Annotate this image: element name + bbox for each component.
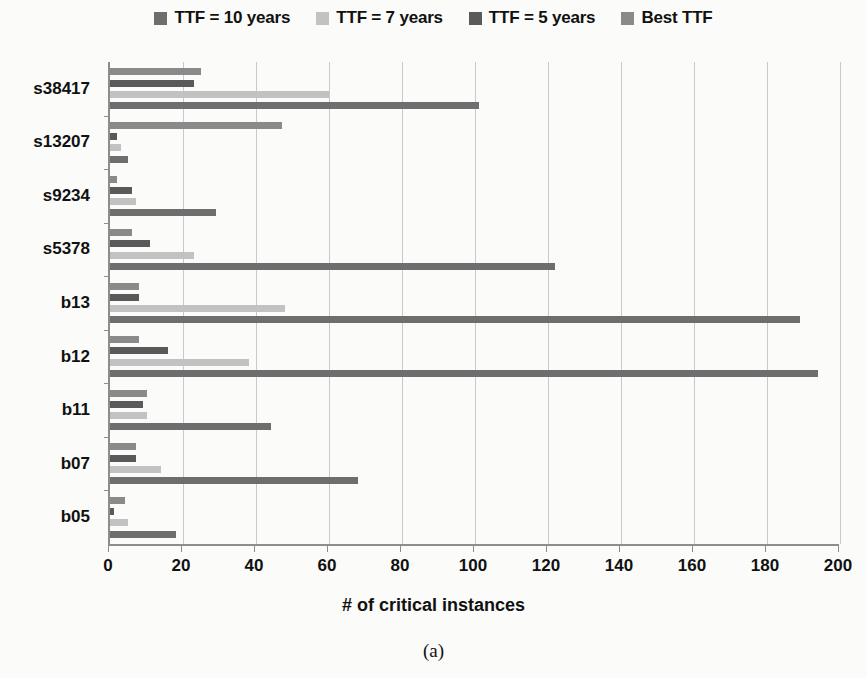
gridline-80 bbox=[402, 62, 403, 544]
y-tick-7 bbox=[104, 437, 110, 438]
legend-label: TTF = 10 years bbox=[174, 8, 290, 28]
y-category-label-s5378: s5378 bbox=[43, 239, 90, 259]
bar-s5378-series-3[interactable] bbox=[110, 229, 132, 236]
x-tick-100 bbox=[473, 546, 474, 552]
x-tick-label-180: 180 bbox=[751, 556, 779, 576]
legend-item-0[interactable]: TTF = 10 years bbox=[154, 8, 290, 28]
bar-b13-series-3[interactable] bbox=[110, 283, 139, 290]
gridline-180 bbox=[767, 62, 768, 544]
y-category-label-b11: b11 bbox=[62, 400, 90, 420]
bar-b07-series-2[interactable] bbox=[110, 455, 136, 462]
y-category-label-b05: b05 bbox=[61, 507, 90, 527]
bar-s9234-series-2[interactable] bbox=[110, 187, 132, 194]
bar-b05-series-3[interactable] bbox=[110, 497, 125, 504]
bar-s13207-series-3[interactable] bbox=[110, 122, 282, 129]
bar-b07-series-1[interactable] bbox=[110, 466, 161, 473]
bar-b12-series-3[interactable] bbox=[110, 336, 139, 343]
bar-b11-series-3[interactable] bbox=[110, 390, 147, 397]
bar-s5378-series-0[interactable] bbox=[110, 263, 555, 270]
x-tick-label-120: 120 bbox=[532, 556, 560, 576]
y-tick-5 bbox=[104, 330, 110, 331]
x-tick-200 bbox=[838, 546, 839, 552]
x-axis-title: # of critical instances bbox=[0, 595, 867, 616]
y-tick-6 bbox=[104, 383, 110, 384]
bar-b05-series-0[interactable] bbox=[110, 531, 176, 538]
y-category-label-b07: b07 bbox=[61, 454, 90, 474]
bar-b07-series-0[interactable] bbox=[110, 477, 358, 484]
figure-container: TTF = 10 yearsTTF = 7 yearsTTF = 5 years… bbox=[0, 0, 867, 678]
y-tick-2 bbox=[104, 169, 110, 170]
x-tick-20 bbox=[181, 546, 182, 552]
x-tick-120 bbox=[546, 546, 547, 552]
legend-swatch-icon bbox=[154, 12, 167, 25]
gridline-140 bbox=[621, 62, 622, 544]
x-tick-label-60: 60 bbox=[318, 556, 337, 576]
y-category-label-b12: b12 bbox=[61, 347, 90, 367]
y-tick-4 bbox=[104, 276, 110, 277]
bar-s9234-series-0[interactable] bbox=[110, 209, 216, 216]
y-tick-8 bbox=[104, 490, 110, 491]
bar-b12-series-0[interactable] bbox=[110, 370, 818, 377]
y-category-label-s38417: s38417 bbox=[33, 79, 90, 99]
x-tick-label-80: 80 bbox=[391, 556, 410, 576]
bar-s5378-series-1[interactable] bbox=[110, 252, 194, 259]
x-tick-0 bbox=[108, 546, 109, 552]
x-tick-label-140: 140 bbox=[605, 556, 633, 576]
chart-legend: TTF = 10 yearsTTF = 7 yearsTTF = 5 years… bbox=[0, 8, 867, 28]
legend-item-2[interactable]: TTF = 5 years bbox=[469, 8, 596, 28]
gridlines bbox=[110, 62, 840, 544]
bar-b13-series-1[interactable] bbox=[110, 305, 285, 312]
legend-swatch-icon bbox=[621, 12, 634, 25]
gridline-100 bbox=[475, 62, 476, 544]
bar-s13207-series-1[interactable] bbox=[110, 144, 121, 151]
gridline-20 bbox=[183, 62, 184, 544]
plot-area bbox=[108, 62, 840, 544]
bar-s9234-series-1[interactable] bbox=[110, 198, 136, 205]
x-tick-40 bbox=[254, 546, 255, 552]
bar-b13-series-2[interactable] bbox=[110, 294, 139, 301]
y-tick-3 bbox=[104, 223, 110, 224]
y-category-label-s13207: s13207 bbox=[33, 132, 90, 152]
x-tick-140 bbox=[619, 546, 620, 552]
y-category-label-s9234: s9234 bbox=[43, 186, 90, 206]
legend-item-1[interactable]: TTF = 7 years bbox=[316, 8, 443, 28]
y-category-label-b13: b13 bbox=[61, 293, 90, 313]
x-tick-60 bbox=[327, 546, 328, 552]
gridline-160 bbox=[694, 62, 695, 544]
legend-swatch-icon bbox=[316, 12, 329, 25]
gridline-120 bbox=[548, 62, 549, 544]
bar-b07-series-3[interactable] bbox=[110, 443, 136, 450]
bar-b05-series-2[interactable] bbox=[110, 508, 114, 515]
gridline-40 bbox=[256, 62, 257, 544]
bar-b13-series-0[interactable] bbox=[110, 316, 800, 323]
x-tick-80 bbox=[400, 546, 401, 552]
bar-b11-series-2[interactable] bbox=[110, 401, 143, 408]
bar-b12-series-1[interactable] bbox=[110, 359, 249, 366]
gridline-200 bbox=[840, 62, 841, 544]
bar-b11-series-1[interactable] bbox=[110, 412, 147, 419]
bar-s13207-series-2[interactable] bbox=[110, 133, 117, 140]
bar-s38417-series-0[interactable] bbox=[110, 102, 479, 109]
bar-s38417-series-2[interactable] bbox=[110, 80, 194, 87]
x-tick-label-200: 200 bbox=[824, 556, 852, 576]
x-tick-180 bbox=[765, 546, 766, 552]
bar-b05-series-1[interactable] bbox=[110, 519, 128, 526]
x-tick-label-100: 100 bbox=[459, 556, 487, 576]
gridline-60 bbox=[329, 62, 330, 544]
bar-b12-series-2[interactable] bbox=[110, 347, 168, 354]
legend-label: Best TTF bbox=[641, 8, 712, 28]
x-tick-label-20: 20 bbox=[172, 556, 191, 576]
legend-label: TTF = 5 years bbox=[489, 8, 596, 28]
x-axis: 020406080100120140160180200 bbox=[108, 544, 839, 546]
bar-s38417-series-3[interactable] bbox=[110, 68, 201, 75]
bar-s9234-series-3[interactable] bbox=[110, 176, 117, 183]
bar-s5378-series-2[interactable] bbox=[110, 240, 150, 247]
bar-s13207-series-0[interactable] bbox=[110, 156, 128, 163]
x-tick-label-0: 0 bbox=[103, 556, 112, 576]
y-axis-category-labels: s38417s13207s9234s5378b13b12b11b07b05 bbox=[0, 62, 100, 544]
bar-b11-series-0[interactable] bbox=[110, 423, 271, 430]
bar-s38417-series-1[interactable] bbox=[110, 91, 329, 98]
subfigure-caption: (a) bbox=[0, 640, 867, 662]
legend-item-3[interactable]: Best TTF bbox=[621, 8, 712, 28]
x-tick-label-40: 40 bbox=[245, 556, 264, 576]
